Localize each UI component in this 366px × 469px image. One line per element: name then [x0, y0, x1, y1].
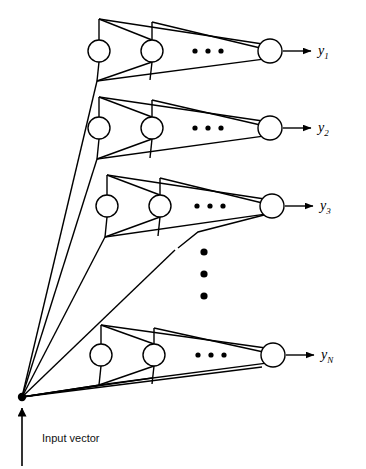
- output-arrows: [283, 51, 314, 355]
- row-2-lateral-c1-c2: [99, 97, 152, 117]
- row-2-lateral-c2-cN: [152, 100, 260, 125]
- row-3-ellipsis-dot-2: [207, 203, 212, 208]
- neuron-r3-cN[interactable]: [260, 194, 284, 218]
- row-2-ellipsis-dot-3: [218, 125, 223, 130]
- neuron-r1-c1[interactable]: [88, 40, 110, 62]
- row-3-ellipsis-dot-1: [194, 203, 199, 208]
- output-label-row-n: yN: [321, 347, 333, 365]
- input-vector-label: Input vector: [42, 432, 99, 444]
- neuron-r2-c2[interactable]: [141, 117, 163, 139]
- row-4-lateral-c1-cN: [101, 325, 264, 348]
- row-2-lateral-lower-c1-cN: [97, 136, 262, 159]
- row-1-stub-down-c2: [150, 62, 152, 80]
- row-3-stub-down-c1: [105, 217, 107, 237]
- neuron-r2-cN[interactable]: [258, 116, 282, 140]
- neuron-rN-cN[interactable]: [261, 343, 285, 367]
- output-label-row-3: y3: [320, 198, 331, 216]
- row-3-ellipsis-dot-3: [220, 203, 225, 208]
- row-1-ellipsis-dot-1: [192, 48, 197, 53]
- row-1-lateral-c1-cN: [99, 19, 261, 44]
- row-2-lateral-c1-cN: [99, 97, 261, 121]
- neuron-r3-c1[interactable]: [96, 195, 118, 217]
- row-3-lateral-lower-c1-c2: [105, 217, 160, 237]
- row-4-ellipsis-dot-1: [195, 352, 200, 357]
- input-vector-node[interactable]: [18, 393, 26, 401]
- row-1-lateral-lower-c1-cN: [97, 59, 262, 81]
- row-4-ellipsis-dot-3: [221, 352, 226, 357]
- vertical-ellipsis-dot-2: [200, 270, 207, 277]
- neuron-r1-c2[interactable]: [141, 40, 163, 62]
- ellipsis-dots: [192, 48, 226, 357]
- row-2-stub-down-c2: [150, 139, 152, 158]
- row-3-lateral-c2-cN: [160, 178, 262, 203]
- diagram-canvas: y1 y2 y3 yN Input vector: [0, 0, 366, 469]
- row-3-lateral-lower-c1-cN: [105, 214, 264, 237]
- row-2-stub-down-c1: [97, 139, 99, 159]
- neuron-r1-cN[interactable]: [258, 39, 282, 63]
- row-1-lateral-c1-c2: [99, 19, 152, 40]
- row-4-lateral-c1-c2: [101, 325, 154, 344]
- row-1-lateral-c2-cN: [152, 22, 260, 48]
- network-diagram-svg: [0, 0, 366, 469]
- row-2-ellipsis-dot-2: [205, 125, 210, 130]
- row-3-stub-down-c2: [158, 217, 160, 236]
- neuron-nodes: [88, 39, 285, 367]
- input-fan-line-3: [22, 237, 105, 397]
- network-layers: [97, 19, 265, 385]
- row-4-lateral-c2-cN: [154, 328, 263, 352]
- row-1-ellipsis-dot-2: [205, 48, 210, 53]
- input-fan-line-8: [22, 385, 100, 397]
- vertical-ellipsis-dot-1: [200, 248, 207, 255]
- row-4-stub-down-c1: [99, 366, 101, 385]
- row-4-ellipsis-dot-2: [208, 352, 213, 357]
- input-fan-line-7: [22, 367, 262, 397]
- neuron-r3-c2[interactable]: [149, 195, 171, 217]
- row-1-stub-down-c1: [97, 62, 99, 81]
- neuron-rN-c1[interactable]: [90, 344, 112, 366]
- output-label-row-2: y2: [318, 120, 329, 138]
- row-1-ellipsis-dot-3: [218, 48, 223, 53]
- input-fan-line-1: [22, 81, 97, 397]
- vertical-ellipsis-dot-3: [200, 292, 207, 299]
- row-2-ellipsis-dot-1: [192, 125, 197, 130]
- neuron-rN-c2[interactable]: [143, 344, 165, 366]
- neuron-r2-c1[interactable]: [88, 117, 110, 139]
- output-label-row-1: y1: [318, 43, 329, 61]
- row-2-lateral-lower-c1-c2: [97, 139, 152, 159]
- row-3-lateral-c1-cN: [107, 175, 263, 199]
- input-vector-group: [18, 393, 26, 466]
- row-3-lateral-c1-c2: [107, 175, 160, 195]
- row-1-lateral-lower-c1-c2: [97, 62, 152, 81]
